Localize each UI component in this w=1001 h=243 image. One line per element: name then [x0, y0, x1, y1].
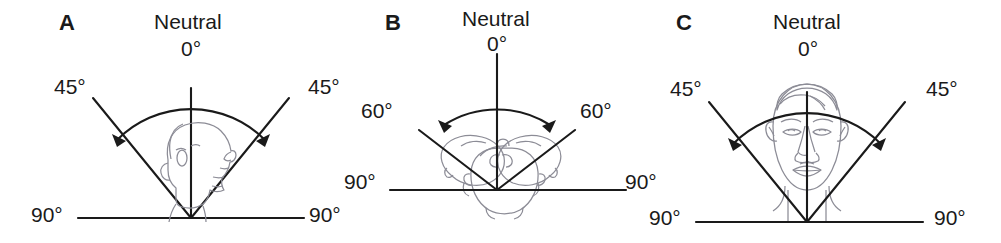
right-ray — [497, 130, 575, 190]
panel-b-right-angle: 60° — [580, 100, 612, 121]
panel-a: A Neutral 0° 45° 45° 90° 90° — [0, 0, 334, 243]
panel-b-letter: B — [385, 12, 401, 34]
head-profile-lateral — [161, 123, 236, 222]
panel-c-neutral-label: Neutral — [773, 11, 841, 32]
panel-b-left-baseline: 90° — [344, 171, 376, 192]
panel-c-left-baseline: 90° — [649, 207, 681, 228]
panel-c-right-baseline: 90° — [934, 207, 966, 228]
panel-a-letter: A — [59, 12, 75, 34]
right-ray — [807, 102, 905, 222]
panel-c-neutral-value: 0° — [798, 38, 818, 59]
panel-a-left-baseline: 90° — [31, 204, 63, 225]
panel-b-neutral-label: Neutral — [462, 8, 530, 29]
panel-b: B Neutral 0° 60° 60° 90° 90° — [334, 0, 668, 243]
right-ray — [191, 98, 289, 218]
panel-b-left-angle: 60° — [361, 100, 393, 121]
panel-a-neutral-label: Neutral — [154, 11, 222, 32]
panel-a-left-angle: 45° — [54, 76, 86, 97]
panel-c: C Neutral 0° 45° 45° 90° 90° — [667, 0, 1001, 243]
left-ray — [709, 102, 807, 222]
panel-c-left-angle: 45° — [670, 78, 702, 99]
figure-root: A Neutral 0° 45° 45° 90° 90° — [0, 0, 1001, 243]
panel-a-neutral-value: 0° — [181, 38, 201, 59]
panel-c-right-angle: 45° — [926, 78, 958, 99]
panel-b-neutral-value: 0° — [487, 33, 507, 54]
panel-c-letter: C — [676, 12, 692, 34]
head-top-center — [464, 139, 545, 219]
panel-b-right-baseline: 90° — [625, 171, 657, 192]
